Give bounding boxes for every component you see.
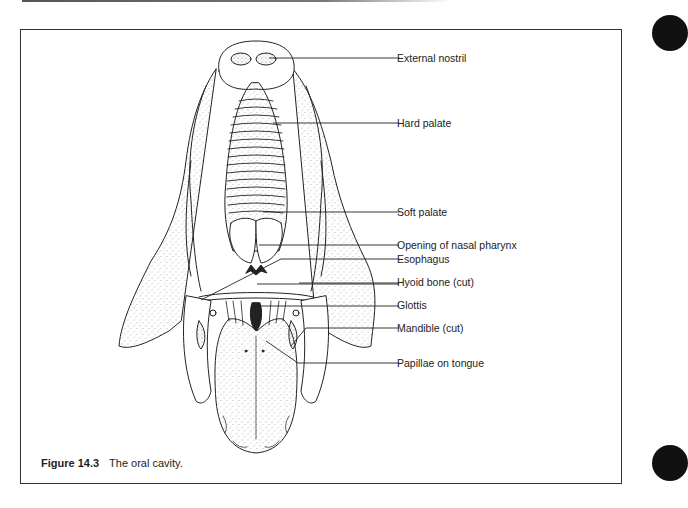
label-esophagus: Esophagus (397, 253, 450, 265)
label-mandible: Mandible (cut) (397, 322, 464, 334)
label-external-nostril: External nostril (397, 52, 466, 64)
label-soft-palate: Soft palate (397, 206, 447, 218)
oral-cavity-illustration (21, 30, 623, 485)
figure-frame: External nostril Hard palate Soft palate… (20, 29, 622, 484)
label-glottis: Glottis (397, 299, 427, 311)
label-hard-palate: Hard palate (397, 117, 451, 129)
label-opening-nasal-pharynx: Opening of nasal pharynx (397, 239, 517, 251)
margin-tab-mark-top (652, 15, 688, 51)
figure-caption: Figure 14.3The oral cavity. (41, 457, 183, 469)
figure-caption-text: The oral cavity. (109, 457, 183, 469)
page-top-rule (22, 0, 452, 2)
margin-tab-mark-bottom (652, 445, 688, 481)
label-hyoid-bone: Hyoid bone (cut) (397, 276, 474, 288)
label-papillae: Papillae on tongue (397, 357, 484, 369)
figure-number: Figure 14.3 (41, 457, 99, 469)
